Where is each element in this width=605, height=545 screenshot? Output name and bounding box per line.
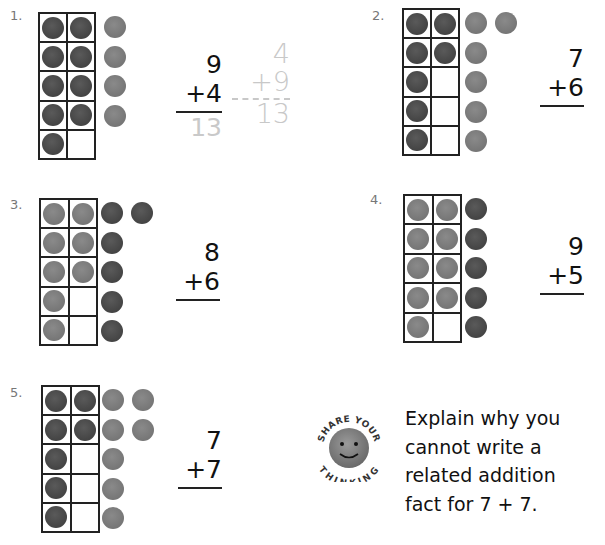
addend-2: +5	[540, 261, 584, 290]
counter-dark	[45, 506, 67, 528]
ten-frame-cell	[69, 228, 98, 257]
addend-2: +7	[178, 455, 222, 484]
ten-frame-cell	[40, 257, 69, 286]
problem-number: 1.	[10, 8, 22, 23]
addition-problem: 9 +5	[540, 232, 584, 295]
ten-frame-cell	[69, 199, 98, 228]
ten-frame-cell	[39, 101, 67, 130]
ten-frame-cell	[71, 444, 100, 473]
counter-light	[407, 287, 429, 309]
ten-frame-cell	[69, 287, 98, 316]
ten-frame-cell	[433, 313, 462, 342]
problem-number: 3.	[10, 197, 22, 212]
counter-dark	[101, 232, 123, 254]
counter-dark	[101, 261, 123, 283]
counter-dark	[465, 198, 487, 220]
counter-dark	[406, 42, 428, 64]
ten-frame-cell	[67, 71, 95, 100]
addend-1: 7	[178, 426, 222, 455]
ten-frame-cell	[39, 13, 67, 42]
smiley-face-icon	[329, 428, 369, 468]
counter-light	[407, 257, 429, 279]
ten-frame-cell	[42, 474, 71, 503]
counter-light	[72, 232, 94, 254]
counter-dark	[74, 390, 96, 412]
addend-1: 9	[176, 50, 222, 79]
related-addend-2: +9	[232, 68, 290, 96]
ten-frame-cell	[42, 444, 71, 473]
addition-problem: 7 +7	[178, 426, 222, 489]
counter-dark	[42, 104, 64, 126]
ten-frame-cell	[69, 257, 98, 286]
ten-frame-cell	[404, 254, 433, 283]
counter-dark	[465, 316, 487, 338]
counter-dark	[70, 46, 92, 68]
counter-light	[43, 232, 65, 254]
ten-frame-cell	[71, 415, 100, 444]
counter-light	[104, 46, 126, 68]
counter-light	[407, 316, 429, 338]
ten-frame-cell	[67, 13, 95, 42]
counter-light	[102, 478, 124, 500]
counter-light	[436, 228, 458, 250]
addend-1: 9	[540, 232, 584, 261]
addend-1: 7	[540, 44, 584, 73]
ten-frame-cell	[67, 101, 95, 130]
counter-dark	[45, 390, 67, 412]
counter-light	[465, 101, 487, 123]
counter-dark	[45, 448, 67, 470]
counter-light	[132, 389, 154, 411]
counter-dark	[406, 71, 428, 93]
counter-light	[495, 12, 517, 34]
sum-line	[540, 105, 584, 107]
ten-frame-cell	[39, 71, 67, 100]
ten-frame-cell	[403, 9, 431, 38]
ten-frame-cell	[67, 42, 95, 71]
counter-dark	[45, 419, 67, 441]
counter-light	[72, 203, 94, 225]
addend-1: 8	[176, 238, 220, 267]
sum-line	[178, 487, 222, 489]
ten-frame-cell	[433, 283, 462, 312]
counter-light	[102, 448, 124, 470]
ten-frame-cell	[40, 316, 69, 345]
ten-frame-cell	[71, 386, 100, 415]
counter-dark	[74, 419, 96, 441]
ten-frame-cell	[403, 67, 431, 96]
counter-light	[436, 287, 458, 309]
ten-frame-cell	[403, 97, 431, 126]
counter-dark	[101, 202, 123, 224]
addend-2: +6	[540, 73, 584, 102]
counter-dark	[406, 100, 428, 122]
prompt-line: cannot write a	[405, 433, 560, 462]
counter-dark	[42, 75, 64, 97]
counter-dark	[42, 133, 64, 155]
counter-dark	[70, 75, 92, 97]
addition-problem: 8 +6	[176, 238, 220, 301]
counter-dark	[406, 129, 428, 151]
ten-frame-cell	[42, 503, 71, 532]
counter-dark	[465, 257, 487, 279]
prompt-line: fact for 7 + 7.	[405, 490, 560, 519]
counter-dark	[70, 17, 92, 39]
ten-frame-cell	[431, 38, 459, 67]
counter-light	[43, 290, 65, 312]
ten-frame-cell	[42, 386, 71, 415]
ten-frame	[39, 198, 98, 346]
ten-frame-cell	[71, 474, 100, 503]
addend-2: +6	[176, 267, 220, 296]
share-your-thinking-badge: SHARE YOUR THINKING	[313, 410, 385, 482]
ten-frame-cell	[40, 199, 69, 228]
sum-line	[540, 293, 584, 295]
ten-frame-cell	[39, 130, 67, 159]
related-fact-traced: 4 +9 13	[232, 40, 290, 128]
counter-dark	[101, 320, 123, 342]
counter-light	[436, 199, 458, 221]
answer-traced: 13	[176, 113, 222, 142]
ten-frame-cell	[433, 254, 462, 283]
related-addend-1: 4	[232, 40, 290, 68]
ten-frame-cell	[431, 97, 459, 126]
ten-frame-cell	[403, 126, 431, 155]
counter-light	[102, 389, 124, 411]
counter-dark	[131, 202, 153, 224]
